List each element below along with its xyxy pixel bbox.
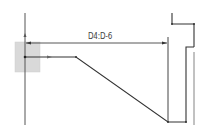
- main-profile-path: [25, 47, 194, 122]
- diagram-canvas: [0, 0, 212, 134]
- vertex-point: [75, 56, 77, 58]
- path-arrow-icon: [47, 56, 52, 59]
- top-right-bracket-path: [172, 13, 194, 47]
- axis-arrow-icon: [24, 33, 27, 37]
- vertex-point: [171, 23, 173, 25]
- dimension-label: D4:D-6: [88, 33, 112, 41]
- vertex-point: [193, 23, 195, 25]
- vertex-point: [167, 121, 169, 123]
- origin-point: [24, 56, 27, 59]
- vertex-point: [185, 121, 187, 123]
- dimension-arrow-right-icon: [162, 42, 167, 45]
